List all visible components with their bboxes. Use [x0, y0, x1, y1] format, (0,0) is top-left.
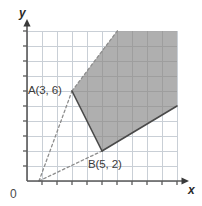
y-axis-arrow: [23, 19, 30, 27]
x-axis-label: x: [188, 184, 195, 196]
point-label-b: B(5, 2): [88, 159, 122, 171]
coordinate-plane-figure: A(3, 6) B(5, 2) x y 0: [0, 0, 202, 206]
plot-svg: [0, 0, 202, 206]
origin-label: 0: [10, 188, 17, 200]
point-label-a: A(3, 6): [28, 85, 62, 97]
y-axis-label: y: [19, 7, 26, 19]
